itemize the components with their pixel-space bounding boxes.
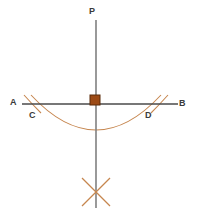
right-angle-marker [90,95,100,105]
label-d: D [145,111,152,120]
construction-canvas [0,0,198,211]
label-p: P [89,7,95,16]
label-b: B [179,99,186,108]
label-a: A [10,98,17,107]
geometry-figure: P A B C D [0,0,198,211]
label-c: C [29,111,36,120]
